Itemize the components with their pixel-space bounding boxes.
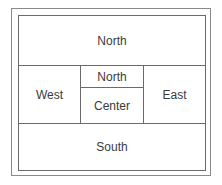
- south-label: South: [96, 140, 127, 154]
- east-label: East: [162, 88, 186, 102]
- north-label: North: [97, 34, 126, 48]
- layout-container: North West North Center East South: [18, 15, 206, 171]
- center-label: Center: [94, 99, 130, 113]
- east-region: East: [143, 66, 205, 123]
- north-region: North: [19, 16, 205, 66]
- center-region: Center: [81, 88, 143, 123]
- west-region: West: [19, 66, 81, 123]
- south-region: South: [19, 123, 205, 170]
- center-north-region: North: [81, 66, 143, 88]
- west-label: West: [36, 88, 63, 102]
- center-north-label: North: [97, 70, 126, 84]
